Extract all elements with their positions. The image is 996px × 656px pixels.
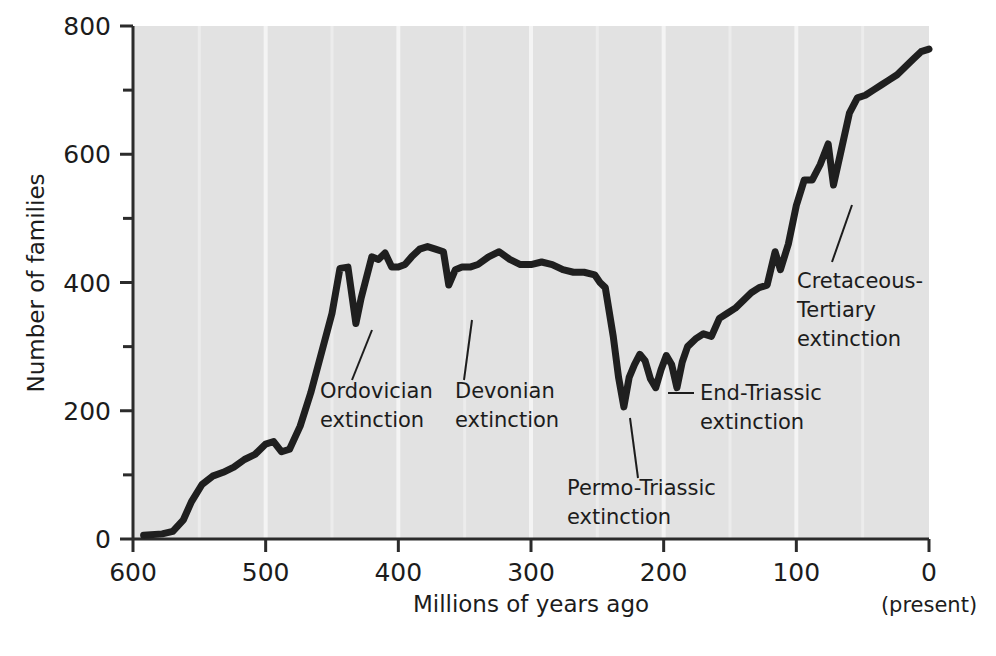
annotation-line: Cretaceous- [797, 269, 923, 293]
x-tick-label: 600 [109, 558, 157, 587]
figure-root: 0200400600800 6005004003002001000 Ordovi… [0, 0, 996, 656]
x-tick-label: 0 [921, 558, 937, 587]
annotation-line: extinction [455, 408, 559, 432]
x-tick-label: 200 [640, 558, 688, 587]
x-tick-label: 500 [242, 558, 290, 587]
y-tick-label: 0 [95, 525, 111, 554]
annotation-line: Devonian [455, 379, 555, 403]
x-tick-label: 400 [374, 558, 422, 587]
y-axis-title: Number of families [23, 173, 49, 392]
annotation-line: Tertiary [796, 298, 876, 322]
annotation-line: Ordovician [320, 379, 433, 403]
x-axis-title: Millions of years ago [413, 591, 649, 617]
x-axis-ticks [133, 539, 929, 552]
x-tick-label: 300 [507, 558, 555, 587]
annotation-line: extinction [567, 505, 671, 529]
present-note: (present) [881, 593, 977, 617]
annotation-line: Permo-Triassic [567, 476, 716, 500]
y-tick-label: 200 [63, 397, 111, 426]
x-axis-tick-labels: 6005004003002001000 [109, 558, 937, 587]
y-tick-label: 600 [63, 140, 111, 169]
y-axis-tick-labels: 0200400600800 [63, 12, 111, 554]
annotation-line: extinction [797, 327, 901, 351]
annotation-line: extinction [700, 410, 804, 434]
annotation-line: extinction [320, 408, 424, 432]
annotation-line: End-Triassic [700, 381, 822, 405]
extinction-line-chart: 0200400600800 6005004003002001000 Ordovi… [0, 0, 996, 656]
y-axis-ticks [120, 26, 133, 539]
x-tick-label: 100 [772, 558, 820, 587]
y-tick-label: 800 [63, 12, 111, 41]
y-tick-label: 400 [63, 269, 111, 298]
